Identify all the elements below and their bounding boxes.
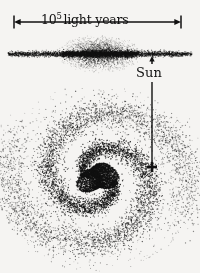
scale-mantissa: 10 <box>41 12 57 27</box>
annotation-overlay <box>0 0 200 273</box>
sun-position-cross-vertical <box>151 162 154 172</box>
scale-unit: light years <box>63 12 128 27</box>
scale-bar-right-arrowhead <box>174 19 181 25</box>
scale-exponent: 5 <box>57 11 62 21</box>
sun-upper-arrowhead <box>149 56 154 61</box>
scale-bar-left-arrowhead <box>14 19 21 25</box>
sun-label: Sun <box>136 66 162 79</box>
scale-bar-label: 105light years <box>41 12 129 27</box>
galaxy-diagram: 105light years Sun <box>0 0 200 273</box>
